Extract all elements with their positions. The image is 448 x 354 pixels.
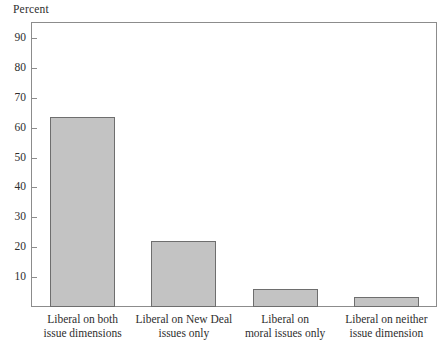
- y-tick-label: 70: [0, 92, 31, 104]
- x-axis-category-label-line: issue dimensions: [32, 326, 133, 340]
- y-tick-label-text: 80: [15, 62, 32, 74]
- y-tick-label-text: 60: [15, 122, 32, 134]
- x-axis-category-label: Liberal on neitherissue dimension: [336, 312, 437, 340]
- y-tick-mark: [32, 128, 37, 129]
- x-axis-category-label-line: Liberal on: [235, 312, 336, 326]
- x-axis-category-label: Liberal on New Dealissues only: [133, 312, 234, 340]
- x-axis-category-label-line: issues only: [133, 326, 234, 340]
- y-tick-label-text: 30: [15, 212, 32, 224]
- y-tick-label: 50: [0, 152, 31, 164]
- y-tick-label: 90: [0, 32, 31, 44]
- y-tick-label: 30: [0, 212, 31, 224]
- y-tick-label-text: 90: [15, 32, 32, 44]
- bar: [253, 289, 318, 307]
- y-tick-label: 40: [0, 182, 31, 194]
- y-tick-mark: [32, 247, 37, 248]
- bar-chart: Percent 102030405060708090 Liberal on bo…: [0, 0, 448, 354]
- bar: [151, 241, 216, 307]
- x-axis-category-label: Liberal on bothissue dimensions: [32, 312, 133, 340]
- y-tick-mark: [32, 38, 37, 39]
- y-tick-mark: [32, 68, 37, 69]
- y-tick-label-text: 40: [15, 182, 32, 194]
- y-tick-mark: [32, 158, 37, 159]
- y-tick-mark: [32, 187, 37, 188]
- bar: [50, 117, 115, 307]
- y-axis-title: Percent: [13, 3, 49, 15]
- y-tick-mark: [32, 98, 37, 99]
- y-tick-label-text: 10: [15, 271, 32, 283]
- x-axis-category-label-line: issue dimension: [336, 326, 437, 340]
- y-tick-label: 10: [0, 271, 31, 283]
- y-tick-label-text: 20: [15, 241, 32, 253]
- y-tick-mark: [32, 217, 37, 218]
- y-tick-label-text: 70: [15, 92, 32, 104]
- x-axis-category-label-line: Liberal on both: [32, 312, 133, 326]
- x-axis-category-label-line: Liberal on neither: [336, 312, 437, 326]
- y-tick-label: 20: [0, 241, 31, 253]
- y-tick-label: 60: [0, 122, 31, 134]
- y-tick-mark: [32, 277, 37, 278]
- y-tick-label-text: 50: [15, 152, 32, 164]
- x-axis-category-label-line: Liberal on New Deal: [133, 312, 234, 326]
- y-tick-label: 80: [0, 62, 31, 74]
- x-axis-category-label: Liberal onmoral issues only: [235, 312, 336, 340]
- bar: [354, 297, 419, 307]
- x-axis-category-label-line: moral issues only: [235, 326, 336, 340]
